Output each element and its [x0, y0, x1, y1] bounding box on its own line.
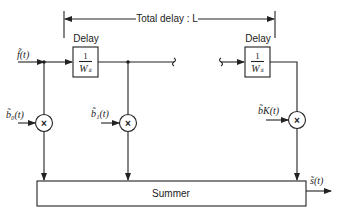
multiply-icon: ×: [41, 118, 47, 129]
tap-k-label: b̃K(t): [258, 104, 280, 117]
tap-1: b̃₁(t) ×: [91, 62, 137, 180]
tapped-delay-line-diagram: Total delay : L f̃(t) Delay 1 Wₛ Delay 1…: [0, 0, 342, 213]
tap-k: b̃K(t) ×: [258, 104, 306, 180]
tap-0-label: b̃₀(t): [6, 108, 25, 121]
svg-text:1: 1: [255, 51, 260, 61]
summer-block: Summer: [37, 181, 306, 206]
svg-text:Wₛ: Wₛ: [251, 63, 263, 74]
delay-block-2: Delay 1 Wₛ: [245, 33, 271, 77]
delay-title-2: Delay: [245, 33, 271, 44]
total-delay-label: Total delay : L: [136, 13, 198, 24]
svg-text:1: 1: [83, 51, 88, 61]
tap-1-label: b̃₁(t): [91, 107, 110, 120]
multiply-icon: ×: [294, 115, 300, 126]
delay-title-1: Delay: [73, 33, 99, 44]
delay-block-1: Delay 1 Wₛ: [73, 33, 99, 77]
svg-text:Wₛ: Wₛ: [79, 63, 91, 74]
output-label: s̃(t): [310, 175, 324, 187]
tap-0: b̃₀(t) ×: [6, 62, 53, 180]
input-label: f̃(t): [17, 48, 30, 61]
summer-label: Summer: [152, 188, 190, 199]
multiply-icon: ×: [125, 118, 131, 129]
